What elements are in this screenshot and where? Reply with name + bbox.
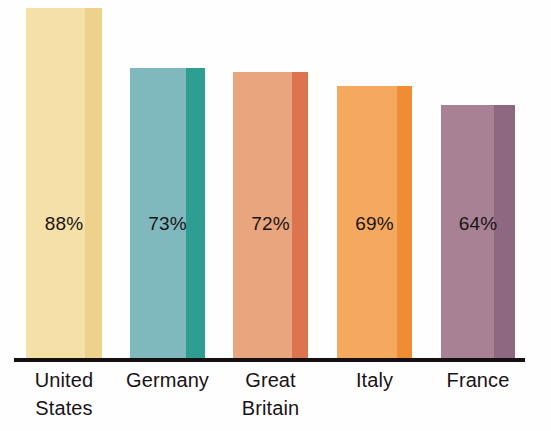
bar-edge-italy [397,86,412,362]
bar-great-britain[interactable] [233,72,308,362]
category-label-line: Britain [224,394,317,422]
category-label-line: United [16,366,112,394]
plot-area: 88% 73% 72% 69% 64% [0,0,551,362]
bar-chart: 88% 73% 72% 69% 64% United States [0,0,551,431]
x-axis-line [14,358,525,362]
category-label-line: Great [224,366,317,394]
bar-edge-germany [186,68,205,362]
category-label-germany: Germany [117,366,218,394]
bar-edge-united-states [85,8,102,362]
bar-france[interactable] [441,105,515,362]
bar-germany[interactable] [130,68,205,362]
category-axis-labels: United States Germany Great Britain Ital… [0,366,551,431]
bar-united-states[interactable] [26,8,102,362]
category-label-italy: Italy [337,366,412,394]
category-label-united-states: United States [16,366,112,422]
bar-italy[interactable] [337,86,412,362]
category-label-line: Italy [337,366,412,394]
category-label-great-britain: Great Britain [224,366,317,422]
category-label-line: States [16,394,112,422]
bar-edge-great-britain [292,72,308,362]
bar-edge-france [494,105,515,362]
category-label-line: France [436,366,520,394]
category-label-france: France [436,366,520,394]
category-label-line: Germany [117,366,218,394]
